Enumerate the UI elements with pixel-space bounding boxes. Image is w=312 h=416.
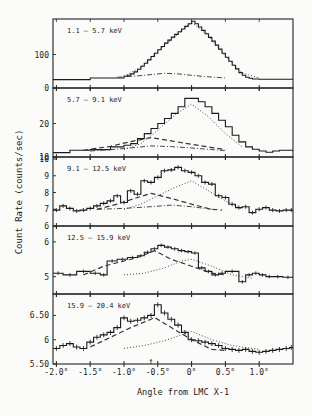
y-tick-label: 9 bbox=[44, 172, 49, 181]
model-curve-dotted bbox=[124, 181, 242, 210]
model-curve-dashed bbox=[83, 138, 225, 151]
panel-3: 6789109.1 – 12.5 keV bbox=[39, 155, 293, 231]
y-tick-label: 6 bbox=[44, 222, 49, 231]
y-tick-label: 20 bbox=[39, 120, 49, 129]
chart-panels: 01001.1 – 5.7 keV10205.7 – 9.1 keV678910… bbox=[30, 19, 293, 369]
y-axis-label: Count Rate (counts/sec) bbox=[14, 130, 24, 255]
panel-energy-label: 15.9 – 20.4 keV bbox=[67, 302, 131, 310]
arrow-marker-icon: ↑ bbox=[148, 356, 153, 366]
data-histogram bbox=[53, 98, 293, 152]
x-tick-label: 0° bbox=[187, 368, 197, 377]
x-tick-label: -0.5° bbox=[146, 368, 170, 377]
panel-5: 5.5066.5015.9 – 20.4 keV bbox=[30, 294, 293, 369]
model-curve-dotted bbox=[124, 259, 252, 278]
x-axis: -2.0°-1.5°-1.0°-0.5°0°0.5°1.0° bbox=[44, 368, 268, 377]
data-histogram bbox=[53, 167, 293, 212]
panel-energy-label: 1.1 – 5.7 keV bbox=[67, 27, 123, 35]
y-tick-label: 100 bbox=[35, 51, 50, 60]
y-tick-label: 6.50 bbox=[30, 311, 49, 320]
multi-panel-chart: 01001.1 – 5.7 keV10205.7 – 9.1 keV678910… bbox=[0, 0, 312, 416]
panel-1: 01001.1 – 5.7 keV bbox=[35, 19, 293, 93]
panel-energy-label: 5.7 – 9.1 keV bbox=[67, 96, 123, 104]
panel-2: 10205.7 – 9.1 keV bbox=[39, 88, 293, 162]
x-tick-label: 0.5° bbox=[216, 368, 235, 377]
model-curve-dashed bbox=[83, 251, 225, 275]
y-tick-label: 5 bbox=[44, 273, 49, 282]
x-tick-label: -1.0° bbox=[112, 368, 136, 377]
panel-4: 5612.5 – 15.9 keV bbox=[44, 226, 293, 297]
x-axis-label: Angle from LMC X-1 bbox=[137, 387, 229, 397]
y-tick-label: 10 bbox=[39, 155, 49, 164]
model-curve-dashdot bbox=[97, 205, 212, 209]
panel-energy-label: 9.1 – 12.5 keV bbox=[67, 165, 127, 173]
x-tick-label: 1.0° bbox=[250, 368, 269, 377]
x-tick-label: -1.5° bbox=[78, 368, 102, 377]
y-tick-label: 8 bbox=[44, 189, 49, 198]
x-tick-label: -2.0° bbox=[44, 368, 68, 377]
y-tick-label: 7 bbox=[44, 205, 49, 214]
panel-energy-label: 12.5 – 15.9 keV bbox=[67, 234, 131, 242]
y-tick-label: 6 bbox=[44, 238, 49, 247]
model-curve-dotted bbox=[124, 104, 242, 150]
y-tick-label: 6 bbox=[44, 336, 49, 345]
data-histogram bbox=[53, 245, 293, 281]
y-tick-label: 0 bbox=[44, 84, 49, 93]
